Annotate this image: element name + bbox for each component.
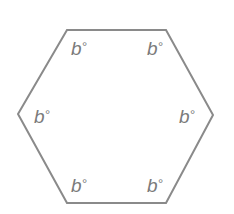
degree-symbol-icon: ° [45,107,50,122]
angle-label-top-right: b° [147,37,163,58]
angle-label-bottom-right-text: b [147,175,158,196]
degree-symbol-icon: ° [158,39,163,54]
degree-symbol-icon: ° [158,176,163,191]
degree-symbol-icon: ° [82,176,87,191]
angle-label-bottom-left-text: b [71,175,82,196]
angle-label-mid-left-text: b [34,106,45,127]
angle-label-top-right-text: b [147,38,158,59]
angle-label-mid-left: b° [34,105,50,126]
angle-label-bottom-left: b° [71,174,87,195]
angle-label-top-left-text: b [71,38,82,59]
angle-label-mid-right: b° [179,105,195,126]
degree-symbol-icon: ° [82,39,87,54]
hexagon-angle-diagram: b° b° b° b° b° b° [0,0,234,214]
angle-label-mid-right-text: b [179,106,190,127]
degree-symbol-icon: ° [190,107,195,122]
angle-label-top-left: b° [71,37,87,58]
angle-label-bottom-right: b° [147,174,163,195]
